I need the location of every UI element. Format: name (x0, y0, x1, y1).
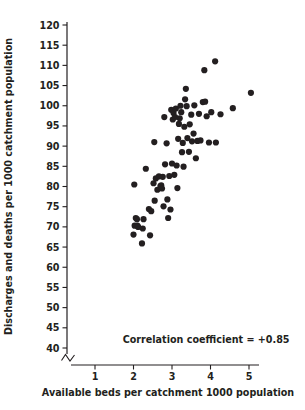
y-axis-tick-label: 70 (46, 221, 60, 232)
y-axis-tick-label: 85 (46, 161, 59, 172)
data-point (174, 162, 180, 168)
data-point (213, 139, 219, 145)
data-point (189, 138, 195, 144)
data-point (193, 155, 199, 161)
x-axis-tick-label: 3 (169, 371, 176, 382)
data-point (208, 109, 214, 115)
data-point (206, 139, 212, 145)
data-point (202, 99, 208, 105)
data-point (183, 86, 189, 92)
data-point (143, 166, 149, 172)
data-point (188, 112, 194, 118)
y-axis-tick-label: 80 (46, 181, 60, 192)
data-point (177, 115, 183, 121)
data-point (187, 121, 193, 127)
data-point (139, 240, 145, 246)
data-point (140, 225, 146, 231)
data-point (161, 114, 167, 120)
data-point (201, 67, 207, 73)
data-point (140, 216, 146, 222)
data-point (131, 181, 137, 187)
y-axis-tick-label: 60 (46, 262, 60, 273)
data-point (176, 121, 182, 127)
y-axis-tick-label: 100 (39, 100, 59, 111)
data-point (184, 103, 190, 109)
y-axis-tick-label: 105 (39, 80, 59, 91)
data-points-layer (130, 58, 254, 246)
data-point (152, 198, 158, 204)
data-point (191, 102, 197, 108)
data-point (190, 131, 196, 137)
data-point (165, 215, 171, 221)
data-point (217, 111, 223, 117)
data-point (162, 161, 168, 167)
data-point (179, 149, 185, 155)
data-point (177, 103, 183, 109)
y-axis-tick-label: 120 (39, 20, 59, 31)
data-point (178, 109, 184, 115)
y-axis: 404550556065707580859095100105110115120 (39, 20, 74, 362)
y-axis-tick-label: 45 (46, 322, 59, 333)
data-point (167, 206, 173, 212)
data-point (151, 139, 157, 145)
correlation-annotation: Correlation coefficient = +0.85 (123, 334, 290, 345)
data-point (186, 149, 192, 155)
y-axis-tick-label: 95 (46, 120, 59, 131)
data-point (130, 231, 136, 237)
data-point (180, 140, 186, 146)
y-axis-title: Discharges and deaths per 1000 catchment… (3, 38, 14, 335)
y-axis-break-icon (62, 355, 75, 362)
y-axis-tick-label: 65 (46, 242, 59, 253)
data-point (147, 232, 153, 238)
data-point (230, 105, 236, 111)
y-axis-tick-label: 40 (46, 343, 60, 354)
x-axis-tick-label: 4 (207, 371, 214, 382)
x-axis-tick-label: 5 (246, 371, 253, 382)
data-point (182, 96, 188, 102)
scatter-plot-figure: 404550556065707580859095100105110115120 … (0, 0, 305, 410)
data-point (181, 124, 187, 130)
data-point (164, 196, 170, 202)
data-point (248, 90, 254, 96)
y-axis-tick-label: 55 (46, 282, 59, 293)
data-point (160, 174, 166, 180)
x-axis-title: Available beds per catchment 1000 popula… (42, 387, 295, 398)
data-point (160, 203, 166, 209)
y-axis-tick-label: 115 (39, 40, 59, 51)
y-axis-tick-label: 50 (46, 302, 60, 313)
data-point (159, 185, 165, 191)
data-point (134, 216, 140, 222)
y-axis-tick-label: 110 (39, 60, 59, 71)
data-point (174, 185, 180, 191)
data-point (164, 140, 170, 146)
x-axis-tick-label: 2 (130, 371, 137, 382)
y-axis-tick-label: 75 (46, 201, 59, 212)
data-point (196, 111, 202, 117)
data-point (180, 164, 186, 170)
data-point (171, 172, 177, 178)
data-point (148, 208, 154, 214)
x-axis: 12345 (71, 365, 259, 382)
scatter-plot-canvas: 404550556065707580859095100105110115120 … (0, 0, 305, 410)
data-point (197, 137, 203, 143)
data-point (212, 58, 218, 64)
x-axis-tick-label: 1 (92, 371, 99, 382)
y-axis-tick-label: 90 (46, 141, 60, 152)
